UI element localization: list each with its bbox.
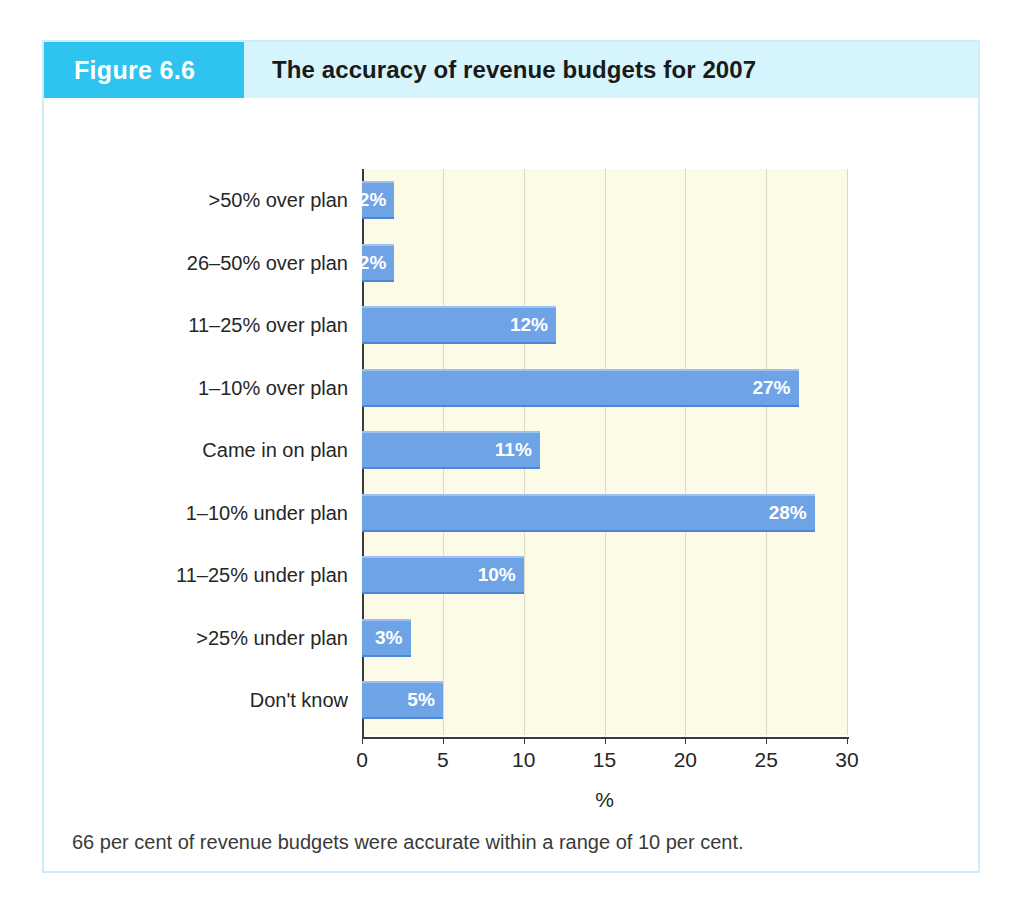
x-tick-label: 15 — [575, 748, 635, 772]
bar-value-label: 5% — [407, 689, 434, 711]
category-label: 11–25% under plan — [66, 544, 348, 606]
x-tick-mark — [524, 737, 525, 744]
bar: 5% — [362, 681, 443, 719]
bar: 27% — [362, 369, 799, 407]
bar-row: 26–50% over plan2% — [44, 232, 978, 294]
bar-row: Came in on plan11% — [44, 419, 978, 481]
bar-value-label: 12% — [510, 314, 548, 336]
x-axis-line — [362, 737, 849, 739]
bar-row: 11–25% under plan10% — [44, 544, 978, 606]
bar: 2% — [362, 181, 394, 219]
bar: 10% — [362, 556, 524, 594]
bar-row: 1–10% under plan28% — [44, 482, 978, 544]
bar-value-label: 11% — [495, 439, 532, 461]
bar-value-label: 28% — [769, 502, 807, 524]
x-tick-label: 5 — [413, 748, 473, 772]
bar: 3% — [362, 619, 411, 657]
bar-row: >25% under plan3% — [44, 607, 978, 669]
x-tick-label: 10 — [494, 748, 554, 772]
x-tick-label: 25 — [736, 748, 796, 772]
bar-row: >50% over plan2% — [44, 169, 978, 231]
x-tick-label: 20 — [655, 748, 715, 772]
x-tick-mark — [685, 737, 686, 744]
bar: 2% — [362, 244, 394, 282]
x-tick-label: 0 — [332, 748, 392, 772]
bar: 28% — [362, 494, 815, 532]
bar-row: 11–25% over plan12% — [44, 294, 978, 356]
bar-value-label: 2% — [359, 252, 386, 274]
category-label: Don't know — [66, 669, 348, 731]
category-label: >25% under plan — [66, 607, 348, 669]
x-tick-mark — [605, 737, 606, 744]
chart-plot: >50% over plan2%26–50% over plan2%11–25%… — [44, 98, 978, 818]
bar-row: Don't know5% — [44, 669, 978, 731]
category-label: 1–10% over plan — [66, 357, 348, 419]
bar: 12% — [362, 306, 556, 344]
bar-value-label: 10% — [478, 564, 516, 586]
category-label: Came in on plan — [66, 419, 348, 481]
category-label: 26–50% over plan — [66, 232, 348, 294]
bar-row: 1–10% over plan27% — [44, 357, 978, 419]
x-tick-mark — [362, 737, 363, 744]
category-label: 11–25% over plan — [66, 294, 348, 356]
bar-value-label: 3% — [375, 627, 402, 649]
bar: 11% — [362, 431, 540, 469]
x-tick-label: 30 — [817, 748, 877, 772]
bar-value-label: 27% — [752, 377, 790, 399]
figure-number-tag: Figure 6.6 — [44, 42, 244, 98]
bar-value-label: 2% — [359, 189, 386, 211]
x-tick-mark — [847, 737, 848, 744]
figure-container: Figure 6.6 The accuracy of revenue budge… — [42, 40, 980, 873]
category-label: >50% over plan — [66, 169, 348, 231]
category-label: 1–10% under plan — [66, 482, 348, 544]
x-axis-title: % — [362, 788, 847, 812]
x-tick-mark — [766, 737, 767, 744]
figure-footnote: 66 per cent of revenue budgets were accu… — [44, 813, 978, 871]
figure-title: The accuracy of revenue budgets for 2007 — [244, 42, 978, 98]
x-tick-mark — [443, 737, 444, 744]
figure-header: Figure 6.6 The accuracy of revenue budge… — [44, 42, 978, 98]
